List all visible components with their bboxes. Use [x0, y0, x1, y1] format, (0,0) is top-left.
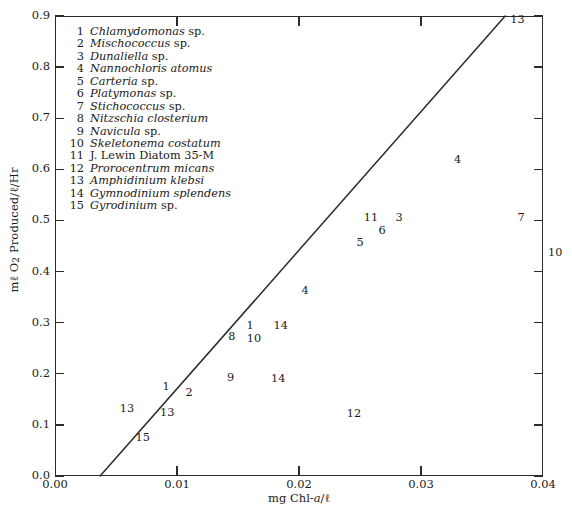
y-axis-title-wrapper: mℓ O2 Produced/ℓ/Hr [12, 0, 13, 460]
y-axis-tick-right [534, 220, 543, 221]
data-point-label: 5 [356, 238, 363, 249]
data-point-label: 10 [548, 247, 562, 258]
y-axis-tick-left [55, 15, 64, 16]
x-axis-title: mg Chl-a/ℓ [55, 491, 543, 505]
legend-item-number: 13 [67, 175, 84, 187]
x-axis-tick-top [298, 16, 299, 26]
data-point-label: 4 [454, 154, 461, 165]
y-axis-title: mℓ O2 Produced/ℓ/Hr [7, 167, 22, 292]
x-axis-tick-bottom [420, 466, 421, 476]
data-point-label: 13 [120, 403, 134, 414]
y-axis-tick-label: 0.4 [18, 266, 50, 278]
y-axis-tick-left [55, 169, 64, 170]
y-axis-tick-left [55, 271, 64, 272]
data-point-label: 4 [302, 285, 309, 296]
data-point-label: 9 [227, 372, 234, 383]
x-axis-tick-label: 0.01 [153, 479, 201, 491]
legend-item-label: Dunaliella sp. [90, 50, 168, 63]
y-axis-tick-left [55, 322, 64, 323]
y-axis-tick-right [534, 66, 543, 67]
y-axis-tick-right [534, 271, 543, 272]
x-axis-tick-label: 0.00 [31, 479, 79, 491]
legend-item-label: Mischococcus sp. [90, 37, 190, 50]
legend-item-label: Gyrodinium sp. [90, 199, 178, 212]
y-axis-tick-label: 0.5 [18, 214, 50, 226]
legend-item-number: 11 [67, 150, 84, 162]
data-point-label: 15 [136, 432, 150, 443]
y-axis-tick-label: 0.2 [18, 368, 50, 380]
y-axis-tick-label: 0.8 [18, 61, 50, 73]
legend-item-number: 6 [67, 88, 84, 100]
data-point-label: 13 [160, 407, 174, 418]
legend-item-label: Nannochloris atomus [90, 62, 212, 75]
data-point-label: 10 [247, 333, 261, 344]
x-axis-tick-top [420, 16, 421, 26]
y-axis-tick-right [534, 424, 543, 425]
legend-item-number: 4 [67, 63, 84, 75]
data-point-label: 6 [378, 225, 385, 236]
y-axis-tick-left [55, 66, 64, 67]
legend-item-label: Carteria sp. [90, 75, 158, 88]
legend-item-label: Prorocentrum micans [90, 162, 214, 175]
legend-item-label: Amphidinium klebsi [90, 174, 204, 187]
y-axis-tick-right [534, 118, 543, 119]
x-axis-tick-label: 0.04 [519, 479, 567, 491]
legend-item-label: Skeletonema costatum [90, 137, 221, 150]
data-point-label: 14 [271, 373, 285, 384]
y-axis-tick-right [534, 15, 543, 16]
legend-item-number: 15 [67, 200, 84, 212]
y-axis-tick-label: 0.1 [18, 419, 50, 431]
data-point-label: 14 [274, 321, 288, 332]
data-point-label: 3 [395, 212, 402, 223]
y-axis-tick-right [534, 373, 543, 374]
y-axis-tick-label: 0.6 [18, 163, 50, 175]
y-axis-tick-label: 0.7 [18, 112, 50, 124]
x-axis-tick-bottom [176, 466, 177, 476]
y-axis-tick-label: 0.3 [18, 317, 50, 329]
y-axis-tick-right [534, 322, 543, 323]
y-axis-tick-left [55, 424, 64, 425]
legend-item-label: Nitzschia closterium [90, 112, 208, 125]
data-point-label: 8 [228, 331, 235, 342]
y-axis-tick-label: 0.9 [18, 10, 50, 22]
data-point-label: 1 [162, 381, 169, 392]
data-point-label: 7 [517, 212, 524, 223]
data-point-label: 2 [186, 387, 193, 398]
legend-item-label: Chlamydomonas sp. [90, 25, 205, 38]
legend-item: 15Gyrodinium sp. [67, 200, 231, 212]
data-point-label: 13 [510, 14, 524, 25]
legend-item-number: 8 [67, 113, 84, 125]
x-axis-tick-label: 0.02 [275, 479, 323, 491]
x-axis-tick-label: 0.03 [397, 479, 445, 491]
legend-item-label: J. Lewin Diatom 35-M [90, 149, 214, 162]
data-point-label: 11 [364, 212, 378, 223]
data-point-label: 1 [247, 321, 254, 332]
y-axis-tick-left [55, 118, 64, 119]
legend-item-label: Navicula sp. [90, 125, 161, 138]
x-axis-tick-bottom [298, 466, 299, 476]
species-legend: 1Chlamydomonas sp.2Mischococcus sp.3Duna… [67, 26, 231, 213]
legend-item-label: Platymonas sp. [90, 87, 176, 100]
data-point-label: 12 [347, 409, 361, 420]
legend-item-label: Stichococcus sp. [90, 100, 185, 113]
figure-scatter-plot: 0.00.10.20.30.40.50.60.70.80.90.000.010.… [0, 0, 572, 510]
y-axis-tick-left [55, 220, 64, 221]
y-axis-tick-left [55, 373, 64, 374]
y-axis-tick-right [534, 169, 543, 170]
legend-item-label: Gymnodinium splendens [90, 187, 231, 200]
